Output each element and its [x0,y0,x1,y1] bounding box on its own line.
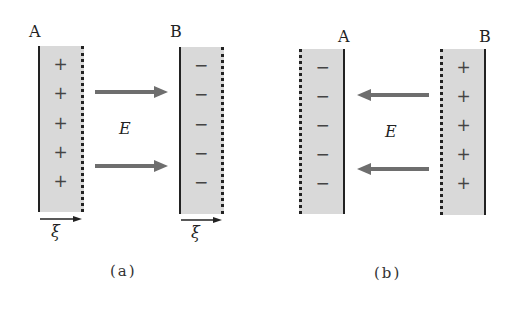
caption-b: (b) [374,264,401,282]
field-label: E [385,122,397,141]
field-arrow-icon [0,0,519,314]
